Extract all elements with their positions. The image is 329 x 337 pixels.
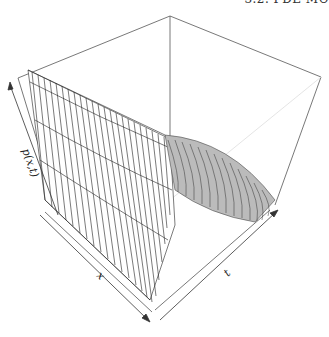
t-axis-label: t [221,266,234,279]
surface-plot: p(x,t) x t [0,0,329,337]
surface-wireframe [28,70,175,302]
surface-tail [165,135,275,222]
x-axis-label: x [94,269,108,283]
z-axis-label: p(x,t) [19,147,41,179]
